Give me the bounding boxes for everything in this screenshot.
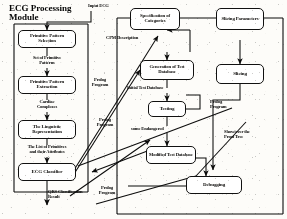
node-modified-test-database: Modified Test Database [146, 146, 196, 164]
input-ecg-label: Input ECG [88, 4, 118, 9]
node-testing[interactable]: Testing [148, 101, 186, 117]
label-initial-test-database: Initial Test Database [127, 86, 185, 91]
node-specification-of-categories[interactable]: Specification of Categories [130, 8, 180, 30]
node-debugging[interactable]: Debugging [186, 176, 242, 194]
ecg-processing-module-title: ECG Processing Module [9, 4, 72, 22]
node-ecg-classifier[interactable]: ECG Classifier [18, 163, 76, 181]
node-slicing[interactable]: Slicing [216, 64, 264, 84]
node-slicing-parameters[interactable]: Slicing Parameters [216, 8, 264, 30]
node-primitive-pattern-selection[interactable]: Primitive Pattern Selection [18, 30, 76, 48]
label-show-prove-proof-tree: Show/over the Proof Tree [224, 130, 276, 139]
label-prolog-program-3: Prolog Program [92, 186, 122, 195]
label-cardiac-complexes: Cardiac Complexes [24, 100, 70, 109]
label-some-endangered: some Endangered [131, 127, 185, 132]
label-set-of-primitive-patterns: Set of Primitive Patterns [20, 56, 74, 65]
diagram-canvas: ECG Processing Module Input ECG Primitiv… [0, 0, 287, 219]
label-cpm-description: CPM Description [106, 36, 152, 41]
node-linguistic-representation[interactable]: The Linguistic Representation [18, 120, 76, 139]
node-primitive-pattern-extraction[interactable]: Primitive Pattern Extraction [18, 76, 76, 94]
label-prolog-program-4: Prolog Program [210, 100, 240, 109]
node-generation-of-test-database[interactable]: Generation of Test Database [140, 60, 194, 80]
label-prolog-program-2: Prolog Program [90, 118, 120, 127]
label-list-of-primitives: The List of Primitives and their Attribu… [16, 145, 78, 154]
label-prolog-program-1: Prolog Program [85, 78, 115, 87]
